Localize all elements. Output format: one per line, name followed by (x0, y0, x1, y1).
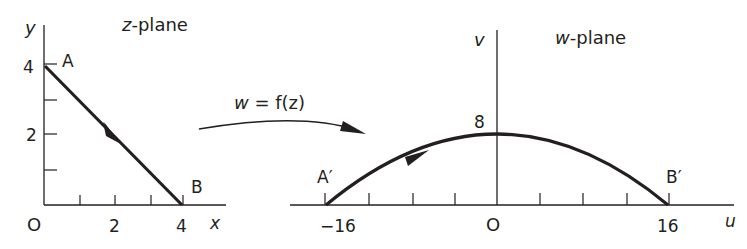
z-x-ticks (80, 195, 183, 205)
w-u-tick-label-neg16: −16 (320, 216, 356, 236)
mapping-arrow: w = f(z) (199, 92, 366, 134)
w-v-axis-label: v (474, 29, 485, 50)
z-y-axis-label: y (24, 17, 36, 38)
point-b-label: B (191, 177, 203, 197)
z-x-tick-label-2: 2 (109, 216, 120, 236)
point-b-prime-label: B′ (666, 167, 682, 187)
z-plane-title: z-plane (121, 14, 188, 35)
w-origin-label: O (486, 214, 500, 235)
w-v-peak-label: 8 (474, 112, 485, 132)
mapping-label: w = f(z) (234, 92, 305, 113)
w-u-axis-label: u (725, 211, 736, 231)
point-a-label: A (62, 51, 74, 71)
z-y-tick-label-4: 4 (23, 57, 34, 77)
z-x-axis-label: x (209, 213, 221, 233)
z-plane: y z-plane 4 2 A B O 2 4 x (23, 14, 226, 236)
mapping-arrowhead-icon (340, 121, 366, 134)
w-plane-title: w-plane (555, 27, 626, 48)
z-y-ticks (44, 64, 57, 170)
z-origin-label: O (27, 214, 41, 235)
point-a-prime-label: A′ (317, 167, 333, 187)
z-x-tick-label-4: 4 (176, 216, 187, 236)
mapping-curve (199, 121, 357, 130)
mapping-diagram: y z-plane 4 2 A B O 2 4 x w = f(z) (0, 0, 747, 249)
z-y-tick-label-2: 2 (26, 125, 37, 145)
w-u-tick-label-16: 16 (657, 216, 679, 236)
